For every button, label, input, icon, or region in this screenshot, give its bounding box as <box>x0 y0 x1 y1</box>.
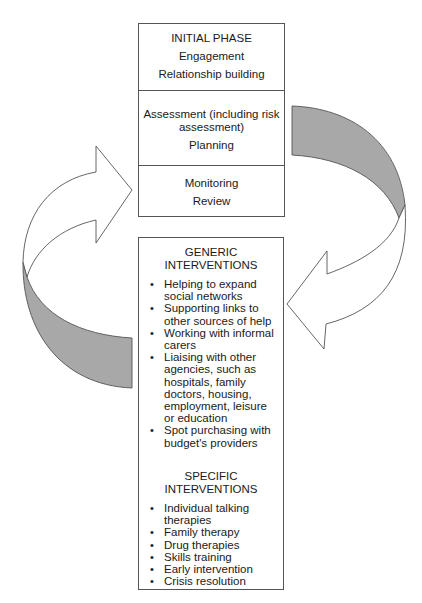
list-item: Working with informal carers <box>139 327 283 351</box>
right-arrow-band <box>292 106 405 218</box>
initial-phase-line: Relationship building <box>139 68 284 81</box>
monitoring-line: Review <box>139 195 284 208</box>
specific-heading: SPECIFIC INTERVENTIONS <box>139 470 283 495</box>
specific-interventions-section: SPECIFIC INTERVENTIONS Individual talkin… <box>139 470 283 587</box>
initial-phase-title: INITIAL PHASE <box>139 32 284 45</box>
monitoring-section: Monitoring Review <box>139 177 284 213</box>
list-item: Spot purchasing with budget's providers <box>139 424 283 448</box>
list-item: Individual talking therapies <box>139 502 283 526</box>
assessment-line: Planning <box>139 139 284 152</box>
initial-phase-section: INITIAL PHASE Engagement Relationship bu… <box>139 32 284 86</box>
list-item: Early intervention <box>139 563 283 575</box>
specific-list: Individual talking therapies Family ther… <box>139 502 283 587</box>
list-item: Supporting links to other sources of hel… <box>139 302 283 326</box>
interventions-box: GENERIC INTERVENTIONS Helping to expand … <box>138 237 284 590</box>
left-arrow-band <box>23 262 132 388</box>
initial-phase-line: Engagement <box>139 50 284 63</box>
generic-interventions-section: GENERIC INTERVENTIONS Helping to expand … <box>139 246 283 449</box>
generic-list: Helping to expand social networks Suppor… <box>139 278 283 449</box>
right-curved-arrow-icon <box>287 106 406 349</box>
generic-heading-line: INTERVENTIONS <box>139 259 283 272</box>
specific-heading-line: INTERVENTIONS <box>139 483 283 496</box>
phase-box: INITIAL PHASE Engagement Relationship bu… <box>138 23 285 217</box>
list-item: Family therapy <box>139 526 283 538</box>
assessment-line: assessment) <box>139 121 284 134</box>
generic-heading-line: GENERIC <box>139 246 283 259</box>
assessment-line: Assessment (including risk <box>139 108 284 121</box>
section-divider <box>139 90 284 91</box>
list-item: Skills training <box>139 551 283 563</box>
list-item: Crisis resolution <box>139 575 283 587</box>
list-item: Liaising with other agencies, such as ho… <box>139 351 283 424</box>
left-curved-arrow-icon <box>23 146 132 388</box>
left-arrow-head <box>23 146 132 277</box>
specific-heading-line: SPECIFIC <box>139 470 283 483</box>
list-item: Drug therapies <box>139 539 283 551</box>
list-item: Helping to expand social networks <box>139 278 283 302</box>
assessment-section: Assessment (including risk assessment) P… <box>139 108 284 157</box>
section-divider <box>139 165 284 166</box>
right-arrow-head <box>287 205 406 349</box>
monitoring-line: Monitoring <box>139 177 284 190</box>
generic-heading: GENERIC INTERVENTIONS <box>139 246 283 271</box>
